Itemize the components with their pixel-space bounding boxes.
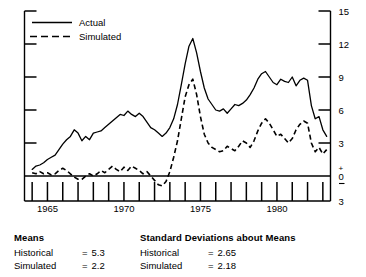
y-tick-label: 3: [339, 138, 344, 149]
means-simulated-equals: =: [78, 259, 92, 272]
means-simulated-label: Simulated: [14, 259, 78, 272]
means-historical-value: 5.3: [92, 246, 105, 259]
y-tick-label: 6: [339, 105, 344, 116]
means-historical-label: Historical: [14, 246, 78, 259]
stddev-historical-label: Historical: [140, 246, 204, 259]
means-historical-equals: =: [78, 246, 92, 259]
stddev-historical-equals: =: [204, 246, 218, 259]
legend-label-simulated: Simulated: [79, 31, 121, 42]
means-simulated-row: Simulated = 2.2: [14, 259, 140, 272]
x-tick-label: 1980: [266, 203, 287, 214]
means-column: Means Historical = 5.3 Simulated = 2.2: [14, 231, 140, 272]
y-tick-label: 15: [339, 6, 350, 17]
x-tick-label: 1975: [190, 203, 211, 214]
stddev-simulated-row: Simulated = 2.18: [140, 259, 340, 272]
means-historical-row: Historical = 5.3: [14, 246, 140, 259]
stddev-historical-row: Historical = 2.65: [140, 246, 340, 259]
y-axis-tick-labels: 1512963+03: [339, 6, 350, 208]
chart-legend: Actual Simulated: [30, 17, 121, 42]
x-axis-tick-labels: 1965197019751980: [37, 203, 288, 214]
chart-statistics-block: Means Historical = 5.3 Simulated = 2.2 S…: [14, 231, 354, 272]
x-tick-label: 1970: [113, 203, 134, 214]
stddev-heading: Standard Deviations about Means: [140, 231, 340, 244]
y-zero-label: 0: [339, 171, 344, 182]
legend-label-actual: Actual: [79, 17, 105, 28]
x-tick-label: 1965: [37, 203, 58, 214]
stddev-simulated-label: Simulated: [140, 259, 204, 272]
chart-figure: 1512963+03 1965197019751980 Actual Simul…: [0, 0, 366, 277]
means-simulated-value: 2.2: [92, 259, 105, 272]
stddev-column: Standard Deviations about Means Historic…: [140, 231, 340, 272]
series-line-actual: [32, 39, 327, 170]
stddev-simulated-equals: =: [204, 259, 218, 272]
line-chart-svg: 1512963+03 1965197019751980 Actual Simul…: [0, 0, 366, 225]
x-axis-ticks: [32, 182, 323, 201]
y-tick-label: 12: [339, 39, 350, 50]
y-axis-ticks: [25, 11, 331, 143]
stddev-historical-value: 2.65: [218, 246, 237, 259]
stddev-simulated-value: 2.18: [218, 259, 237, 272]
y-tick-label: 9: [339, 72, 344, 83]
y-tick-label-negative-three: 3: [339, 196, 344, 207]
means-heading: Means: [14, 231, 140, 244]
